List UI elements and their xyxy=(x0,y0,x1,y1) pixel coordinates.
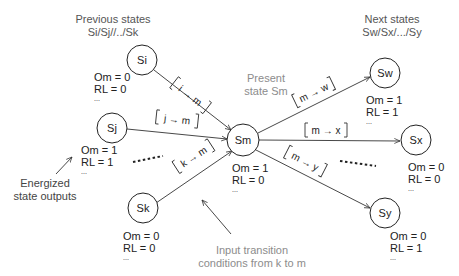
next-states-ellipsis xyxy=(340,161,376,166)
transition-label-m-w: m → w xyxy=(292,77,336,108)
svg-text:Sw: Sw xyxy=(377,67,392,79)
svg-text:Sx: Sx xyxy=(410,134,423,146)
state-sy: Sy Om = 0 RL = 1 ... xyxy=(370,198,426,261)
state-sm-om: Om = 1 xyxy=(232,162,268,174)
state-si: Si Om = 0 RL = 0 ... xyxy=(94,45,157,102)
svg-text:Energized: Energized xyxy=(20,177,70,189)
state-sm-rl: RL = 0 xyxy=(232,174,264,186)
state-sk-rl: RL = 0 xyxy=(123,242,155,254)
input-conditions-annotation: Input transition conditions from k to m xyxy=(198,200,306,269)
svg-text:Sk: Sk xyxy=(137,202,150,214)
state-sj-om: Om = 1 xyxy=(81,144,117,156)
energized-outputs-annotation: Energized state outputs xyxy=(14,157,77,202)
svg-text:...: ... xyxy=(123,254,129,261)
svg-text:...: ... xyxy=(232,186,238,193)
transition-label-k-m: k → m xyxy=(172,139,215,174)
next-states-title: Next states xyxy=(364,13,420,25)
state-sm: Sm Om = 1 RL = 0 ... xyxy=(227,124,268,193)
transition-label-m-y: m → y xyxy=(284,145,328,177)
edge-sj-to-sm xyxy=(127,129,227,139)
transition-label-m-x: m → x xyxy=(305,123,347,137)
state-sk: Sk Om = 0 RL = 0 ... xyxy=(123,193,159,261)
svg-text:m → w: m → w xyxy=(297,80,330,104)
svg-text:m → x: m → x xyxy=(312,125,341,136)
state-sk-om: Om = 0 xyxy=(123,230,159,242)
state-sj: Sj Om = 1 RL = 1 ... xyxy=(81,113,127,175)
svg-text:j → m: j → m xyxy=(162,113,190,127)
present-state-header: Present state Sm xyxy=(244,72,287,97)
next-states-header: Next states Sw/Sx/.../Sy xyxy=(362,13,422,38)
svg-text:state outputs: state outputs xyxy=(14,190,77,202)
svg-text:...: ... xyxy=(94,95,100,102)
svg-text:conditions from k to m: conditions from k to m xyxy=(198,257,306,269)
state-sx-om: Om = 0 xyxy=(408,161,444,173)
svg-text:i → m: i → m xyxy=(177,83,204,108)
state-sw-om: Om = 1 xyxy=(366,94,402,106)
svg-text:...: ... xyxy=(408,185,414,192)
previous-states-ellipsis xyxy=(133,156,163,162)
state-sx: Sx Om = 0 RL = 0 ... xyxy=(401,125,444,192)
energized-pointer-arrow xyxy=(56,157,72,174)
previous-states-title: Previous states xyxy=(75,13,151,25)
svg-text:Input transition: Input transition xyxy=(216,244,288,256)
state-transition-diagram: Previous states Si/Sj//../Sk Next states… xyxy=(0,0,459,276)
svg-text:Sm: Sm xyxy=(235,134,252,146)
next-states-list: Sw/Sx/.../Sy xyxy=(362,26,422,38)
svg-text:k → m: k → m xyxy=(179,144,209,169)
state-si-rl: RL = 0 xyxy=(94,83,126,95)
input-pointer-arrow xyxy=(202,200,231,234)
transition-label-i-m: i → m xyxy=(170,77,212,114)
state-sw: Sw Om = 1 RL = 1 ... xyxy=(366,58,402,125)
svg-text:Sj: Sj xyxy=(107,122,117,134)
edge-sm-to-sx xyxy=(259,140,400,141)
svg-text:...: ... xyxy=(366,118,372,125)
state-sw-rl: RL = 1 xyxy=(366,106,398,118)
transition-label-j-m: j → m xyxy=(155,110,198,128)
state-sx-rl: RL = 0 xyxy=(408,173,440,185)
state-si-om: Om = 0 xyxy=(94,71,130,83)
previous-states-header: Previous states Si/Sj//../Sk xyxy=(75,13,151,38)
svg-text:Sy: Sy xyxy=(379,207,392,219)
previous-states-list: Si/Sj//../Sk xyxy=(88,26,139,38)
present-state-title: Present xyxy=(247,72,285,84)
svg-text:...: ... xyxy=(81,168,87,175)
svg-text:...: ... xyxy=(390,254,396,261)
state-sj-rl: RL = 1 xyxy=(81,156,113,168)
svg-text:Si: Si xyxy=(137,54,147,66)
present-state-name: state Sm xyxy=(244,85,287,97)
state-sy-rl: RL = 1 xyxy=(390,242,422,254)
state-sy-om: Om = 0 xyxy=(390,230,426,242)
